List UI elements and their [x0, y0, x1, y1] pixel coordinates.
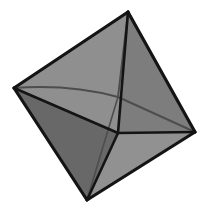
octahedron-figure	[0, 0, 209, 213]
image-canvas	[0, 0, 209, 213]
edge-front-vertex-right	[118, 132, 195, 133]
